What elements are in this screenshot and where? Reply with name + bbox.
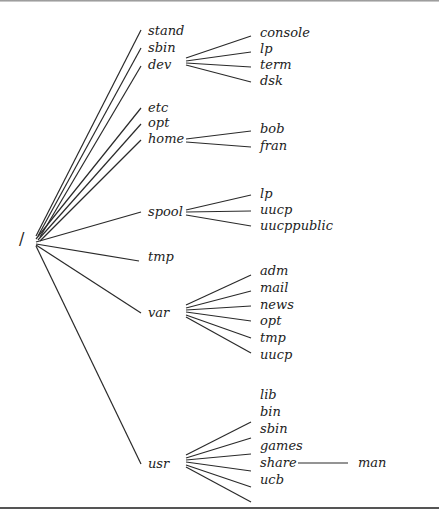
node-var-opt: opt bbox=[260, 313, 282, 328]
node-home-fran: fran bbox=[259, 138, 287, 153]
home-edges bbox=[186, 131, 251, 147]
dev-edges bbox=[186, 36, 251, 82]
node-home-bob: bob bbox=[260, 121, 284, 136]
node-spool-uucppublic: uucppublic bbox=[260, 218, 334, 233]
node-dev-term: term bbox=[260, 57, 291, 72]
node-home: home bbox=[148, 131, 185, 146]
var-edges bbox=[186, 275, 251, 353]
node-dev-dsk: dsk bbox=[260, 73, 283, 88]
node-usr-games: games bbox=[260, 438, 303, 453]
node-dev-lp: lp bbox=[260, 41, 273, 56]
node-spool-lp: lp bbox=[260, 186, 273, 201]
spool-edges bbox=[186, 195, 251, 226]
node-dev: dev bbox=[148, 57, 172, 72]
node-var-uucp: uucp bbox=[260, 347, 293, 362]
usr-edges bbox=[186, 422, 251, 502]
node-spool-uucp: uucp bbox=[260, 202, 293, 217]
root-edges bbox=[36, 30, 141, 464]
node-usr: usr bbox=[148, 456, 170, 471]
node-var-adm: adm bbox=[260, 263, 288, 278]
node-var-mail: mail bbox=[260, 280, 288, 295]
node-tmp: tmp bbox=[148, 249, 175, 264]
directory-tree-diagram: / stand sbin dev etc opt home spool tmp … bbox=[0, 0, 439, 514]
node-root: / bbox=[19, 229, 25, 248]
node-usr-ucb: ucb bbox=[260, 472, 284, 487]
node-sbin: sbin bbox=[148, 40, 176, 55]
node-var-tmp: tmp bbox=[260, 330, 287, 345]
node-var: var bbox=[148, 305, 170, 320]
node-usr-share: share bbox=[260, 455, 297, 470]
bottom-rule bbox=[0, 507, 439, 509]
node-spool: spool bbox=[148, 204, 183, 219]
node-usr-bin: bin bbox=[260, 404, 281, 419]
node-usr-sbin: sbin bbox=[260, 421, 288, 436]
node-usr-lib: lib bbox=[260, 387, 277, 402]
node-dev-console: console bbox=[260, 25, 310, 40]
node-var-news: news bbox=[260, 297, 294, 312]
node-share-man: man bbox=[358, 455, 386, 470]
node-opt: opt bbox=[148, 115, 170, 130]
node-etc: etc bbox=[148, 100, 169, 115]
node-stand: stand bbox=[148, 23, 184, 38]
